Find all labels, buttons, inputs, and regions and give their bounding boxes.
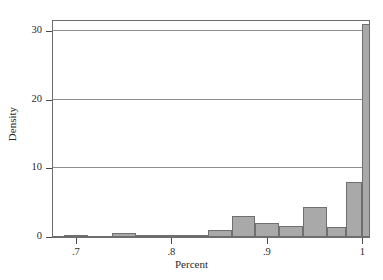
histogram-bar bbox=[279, 226, 303, 237]
y-tick-label: 10 bbox=[6, 161, 42, 172]
y-tick-mark bbox=[46, 237, 52, 238]
histogram-bar bbox=[362, 24, 370, 237]
x-tick-mark bbox=[362, 238, 363, 244]
histogram-bar bbox=[232, 216, 256, 237]
y-tick-mark bbox=[46, 31, 52, 32]
histogram-bar bbox=[255, 223, 279, 237]
x-tick-mark bbox=[171, 238, 172, 244]
histogram-bar bbox=[208, 230, 232, 237]
gridline-y-10 bbox=[52, 167, 370, 168]
x-tick-label: .7 bbox=[56, 246, 96, 257]
histogram-bar bbox=[303, 207, 327, 237]
x-tick-label: .8 bbox=[151, 246, 191, 257]
gridline-y-30 bbox=[52, 30, 370, 31]
histogram-bar bbox=[327, 227, 346, 237]
x-tick-label: .9 bbox=[247, 246, 287, 257]
y-axis-line bbox=[52, 20, 53, 237]
y-axis-title: Density bbox=[6, 94, 18, 154]
histogram-bar bbox=[346, 182, 362, 237]
plot-area bbox=[52, 20, 370, 237]
y-tick-label: 30 bbox=[6, 24, 42, 35]
y-tick-label: 0 bbox=[6, 230, 42, 241]
x-tick-mark bbox=[267, 238, 268, 244]
x-axis-title: Percent bbox=[0, 258, 383, 270]
gridline-y-20 bbox=[52, 99, 370, 100]
y-tick-mark bbox=[46, 100, 52, 101]
x-tick-mark bbox=[76, 238, 77, 244]
x-tick-label: 1 bbox=[342, 246, 382, 257]
histogram-chart: 0102030 .7.8.91 Percent Density bbox=[0, 0, 383, 280]
y-tick-mark bbox=[46, 168, 52, 169]
x-axis-line bbox=[52, 237, 370, 238]
